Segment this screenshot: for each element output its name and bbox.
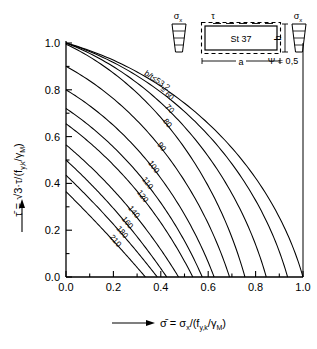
curve-70 (66, 43, 266, 277)
inset-psi-label: Ψ = 0,5 (268, 56, 298, 66)
curve-label-group: 90 (155, 140, 168, 153)
y-axis-title-text: τ̄ = √3·τ/(fy,k/γM) (12, 143, 27, 216)
x-axis-title-text: σ̄ = σx/(fy,k/γM) (160, 317, 226, 332)
y-tick-label: 0.8 (45, 84, 60, 96)
chart-figure: 0.00.20.40.60.81.00.00.20.40.60.81.0b/t≤… (0, 0, 317, 349)
curve-label-group: 70 (163, 102, 176, 115)
curve-90 (66, 66, 230, 277)
curve-120 (66, 124, 193, 277)
curve-label: = 60 (158, 85, 176, 102)
curve-140 (66, 145, 179, 277)
y-tick-label: 0.2 (45, 224, 60, 236)
curve-160 (66, 160, 167, 277)
inset-tau-label: τ (211, 11, 215, 21)
curve-label: 120 (135, 188, 151, 205)
x-tick-label: 0.6 (201, 281, 216, 293)
x-axis-arrow-head (146, 320, 155, 326)
y-tick-label: 0.4 (45, 177, 60, 189)
y-tick-label: 1.0 (45, 37, 60, 49)
x-tick-label: 1.0 (295, 281, 310, 293)
curve-110 (66, 109, 202, 277)
inset-material-label: St 37 (230, 34, 251, 44)
chart-canvas: 0.00.20.40.60.81.00.00.20.40.60.81.0b/t≤… (0, 0, 317, 349)
curve-label: 80 (161, 117, 174, 130)
x-tick-label: 0.4 (153, 281, 168, 293)
y-tick-label: 0.0 (45, 271, 60, 283)
curve-label: 90 (155, 140, 168, 153)
curve-label-group: 80 (161, 117, 174, 130)
curve-label: 70 (163, 102, 176, 115)
x-tick-label: 0.8 (248, 281, 263, 293)
x-tick-label: 0.2 (106, 281, 121, 293)
curve-label-group: 120 (135, 188, 151, 205)
inset-sigma-left-label: σx (174, 11, 183, 23)
curve-label: 100 (146, 159, 162, 176)
y-tick-label: 0.6 (45, 131, 60, 143)
inset-dim-a-label: a (238, 57, 243, 67)
curve-label-group: 100 (146, 159, 162, 176)
curve-label-group: = 60 (158, 85, 176, 102)
x-tick-label: 0.0 (58, 281, 73, 293)
y-axis-title: τ̄ = √3·τ/(fy,k/γM) (12, 143, 27, 216)
inset-sigma-right-label: σx (294, 11, 303, 23)
inset-dim-b-label: b (273, 35, 283, 40)
inset-dim-b-group: b (273, 35, 283, 40)
